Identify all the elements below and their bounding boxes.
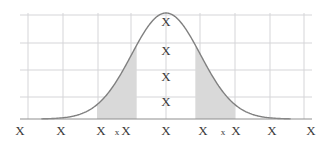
x-axis-tick-label-2: X xyxy=(96,124,105,137)
x-axis-tick-label-8: X xyxy=(231,124,240,137)
y-axis-tick-label-1: X xyxy=(161,44,170,57)
bell-curve-chart: XXXxXXXxXXX XXXX xyxy=(0,0,330,146)
y-axis-tick-label-3: X xyxy=(161,95,170,108)
x-axis-tick-label-3: x xyxy=(115,126,120,139)
x-axis-tick-label-4: X xyxy=(121,124,130,137)
x-axis-tick-label-5: X xyxy=(161,124,170,137)
x-axis-tick-label-10: X xyxy=(306,124,315,137)
y-axis-tick-label-0: X xyxy=(161,15,170,28)
y-axis-tick-label-2: X xyxy=(161,70,170,83)
x-axis-tick-label-6: X xyxy=(198,124,207,137)
x-axis-tick-label-0: X xyxy=(15,124,24,137)
x-axis-tick-label-1: X xyxy=(56,124,65,137)
x-axis-tick-label-9: X xyxy=(267,124,276,137)
x-axis-tick-label-7: x xyxy=(221,126,226,139)
